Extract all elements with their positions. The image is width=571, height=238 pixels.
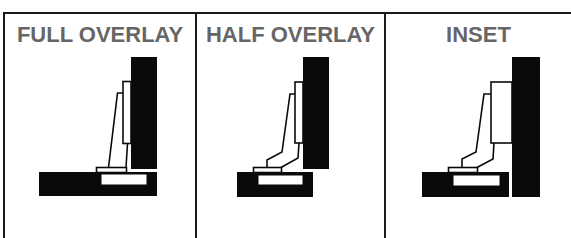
door — [303, 57, 329, 169]
door — [512, 57, 540, 197]
hinge-arm-lower — [126, 144, 128, 168]
hinge-arm-lower — [477, 143, 494, 168]
hinge-cup — [295, 82, 303, 143]
half-overlay-hinge-icon — [237, 57, 329, 197]
mounting-plate — [453, 175, 500, 186]
hinge-cup — [491, 82, 512, 143]
door — [131, 57, 157, 169]
hinge-arm — [462, 94, 491, 168]
base-plate — [449, 168, 478, 173]
base-plate — [254, 168, 282, 173]
hinge-arm — [109, 93, 124, 168]
full-overlay-hinge-icon — [39, 57, 157, 196]
inset-hinge-icon — [422, 57, 540, 197]
hinge-arm — [267, 94, 295, 168]
mounting-plate — [101, 174, 147, 185]
hinge-diagrams — [0, 0, 571, 238]
base-plate — [97, 168, 127, 173]
hinge-arm-lower — [281, 143, 299, 168]
hinge-cup — [123, 82, 131, 144]
mounting-plate — [258, 175, 303, 185]
